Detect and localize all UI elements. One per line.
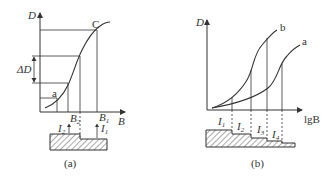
caption-a: (a): [64, 157, 77, 170]
step-wedge-a: [50, 134, 107, 150]
step-label-2: I2: [236, 120, 245, 134]
step-label-1: I1: [217, 115, 225, 129]
x-axis-label-b: lgB: [304, 113, 320, 125]
panel-a: D B ΔD C a B2 B1 I2 I1 (a): [16, 9, 125, 170]
y-axis-label-b: D: [195, 16, 204, 28]
x-axis-label-a: B: [118, 115, 125, 127]
diagram-canvas: D B ΔD C a B2 B1 I2 I1 (a): [0, 0, 329, 178]
step-label-4: I4: [271, 128, 280, 142]
b2-label: B2: [70, 112, 81, 126]
curve-b-label: b: [280, 21, 286, 33]
delta-d-label: ΔD: [16, 63, 31, 75]
point-c-label: C: [92, 18, 99, 30]
panel-b: D lgB b a I1 I2 I3 I4 (b): [195, 16, 320, 170]
y-axis-label-a: D: [27, 9, 36, 21]
curve-a-label: a: [302, 35, 307, 47]
caption-b: (b): [251, 157, 264, 170]
step-label-3: I3: [256, 123, 265, 137]
point-a-label: a: [52, 87, 57, 99]
